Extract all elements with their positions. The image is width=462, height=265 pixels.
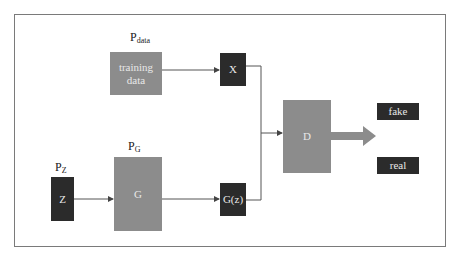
training-data-node: training data bbox=[110, 52, 162, 95]
discriminator-node: D bbox=[283, 100, 331, 173]
x-node-label: X bbox=[229, 63, 237, 76]
generator-label: G bbox=[134, 188, 142, 201]
real-output: real bbox=[377, 157, 419, 174]
p-z-label: PZ bbox=[55, 160, 67, 175]
p-data-label: Pdata bbox=[130, 30, 150, 45]
z-node: Z bbox=[51, 177, 74, 221]
training-data-line2: data bbox=[119, 74, 153, 87]
gz-node: G(z) bbox=[220, 183, 246, 216]
gz-node-label: G(z) bbox=[223, 193, 243, 206]
discriminator-label: D bbox=[303, 130, 311, 143]
z-node-label: Z bbox=[59, 193, 66, 206]
real-label: real bbox=[390, 159, 406, 172]
generator-node: G bbox=[114, 157, 162, 231]
x-node: X bbox=[220, 53, 246, 86]
training-data-line1: training bbox=[119, 61, 153, 74]
fake-label: fake bbox=[389, 105, 408, 118]
p-g-label: PG bbox=[128, 139, 140, 154]
fake-output: fake bbox=[377, 103, 419, 120]
